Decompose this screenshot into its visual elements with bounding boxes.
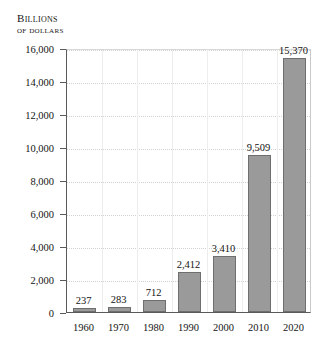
y-axis-tick-label: 6,000	[0, 209, 54, 220]
bar-chart: Billions of dollars 02,0004,0006,0008,00…	[0, 0, 324, 347]
y-axis-tick-mark	[60, 115, 66, 116]
bar-value-label: 237	[76, 295, 92, 306]
gridline-horizontal	[67, 182, 310, 183]
bar-value-label: 15,370	[279, 45, 308, 56]
bar-1990	[178, 272, 200, 312]
x-axis-tick-label: 1980	[143, 322, 164, 333]
plot-area	[66, 49, 311, 313]
gridline-vertical	[172, 50, 173, 312]
bar-2000	[213, 256, 235, 312]
bar-value-label: 2,412	[177, 259, 201, 270]
y-axis-tick-label: 12,000	[0, 110, 54, 121]
y-axis-tick-mark	[60, 280, 66, 281]
y-axis-tick-label: 16,000	[0, 44, 54, 55]
x-axis-tick-label: 2010	[248, 322, 269, 333]
bar-value-label: 3,410	[212, 243, 236, 254]
y-axis-tick-mark	[60, 247, 66, 248]
y-axis-tick-label: 14,000	[0, 77, 54, 88]
bar-2020	[283, 58, 305, 312]
y-axis-tick-mark	[60, 181, 66, 182]
gridline-horizontal	[67, 248, 310, 249]
y-axis-tick-label: 0	[0, 308, 54, 319]
y-axis-tick-label: 8,000	[0, 176, 54, 187]
bar-2010	[248, 155, 270, 312]
x-axis-tick-label: 1990	[178, 322, 199, 333]
bar-value-label: 283	[111, 294, 127, 305]
gridline-vertical	[242, 50, 243, 312]
x-axis-tick-label: 1960	[73, 322, 94, 333]
gridline-vertical	[207, 50, 208, 312]
y-axis-tick-mark	[60, 214, 66, 215]
gridline-horizontal	[67, 149, 310, 150]
y-axis-tick-mark	[60, 82, 66, 83]
gridline-horizontal	[67, 116, 310, 117]
bar-1960	[73, 308, 95, 312]
gridline-horizontal	[67, 215, 310, 216]
y-axis-title-line1: Billions	[17, 12, 64, 25]
gridline-vertical	[102, 50, 103, 312]
y-axis-tick-label: 2,000	[0, 275, 54, 286]
bar-1970	[108, 307, 130, 312]
y-axis-tick-mark	[60, 49, 66, 50]
gridline-horizontal	[67, 83, 310, 84]
x-axis-tick-label: 2020	[283, 322, 304, 333]
y-axis-tick-label: 10,000	[0, 143, 54, 154]
gridline-vertical	[137, 50, 138, 312]
bar-value-label: 9,509	[247, 142, 271, 153]
y-axis-tick-mark	[60, 148, 66, 149]
x-axis-tick-label: 1970	[108, 322, 129, 333]
bar-1980	[143, 300, 165, 312]
y-axis-tick-label: 4,000	[0, 242, 54, 253]
gridline-vertical	[277, 50, 278, 312]
y-axis-title-line2: of dollars	[17, 25, 64, 36]
x-axis-tick-label: 2000	[213, 322, 234, 333]
y-axis-tick-mark	[60, 313, 66, 314]
y-axis-title: Billions of dollars	[17, 12, 64, 36]
gridline-horizontal	[67, 50, 310, 51]
bar-value-label: 712	[146, 287, 162, 298]
